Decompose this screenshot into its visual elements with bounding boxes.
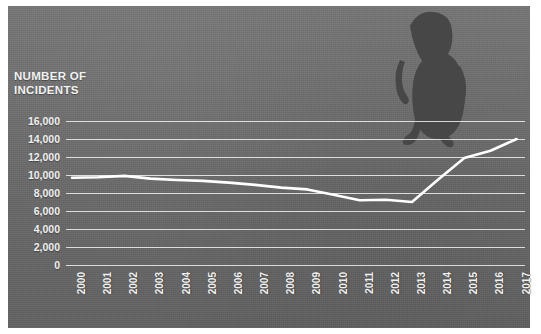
y-axis-title: NUMBER OF INCIDENTS [14,69,86,97]
gridline-0 [66,265,525,266]
x-tick-label-2010: 2010 [338,272,349,294]
y-tick-label-6000: 6,000 [34,205,60,217]
gridline-14000 [66,139,525,140]
x-tick-label-2003: 2003 [154,272,165,294]
x-tick-label-2006: 2006 [233,272,244,294]
x-tick-label-2004: 2004 [181,272,192,294]
y-axis-tick-labels: 16,00014,00012,00010,0008,0006,0004,0002… [0,121,60,265]
y-tick-label-4000: 4,000 [34,223,60,235]
x-tick-label-2015: 2015 [468,272,479,294]
y-tick-label-16000: 16,000 [28,115,60,127]
x-tick-label-2000: 2000 [76,272,87,294]
gridline-2000 [66,247,525,248]
y-tick-label-2000: 2,000 [34,241,60,253]
y-tick-label-0: 0 [54,259,60,271]
x-tick-label-2001: 2001 [102,272,113,294]
x-axis-tick-labels: 2000200120022003200420052006200720082009… [66,270,525,330]
x-tick-label-2013: 2013 [416,272,427,294]
x-tick-label-2005: 2005 [207,272,218,294]
gridline-10000 [66,175,525,176]
y-tick-label-14000: 14,000 [28,133,60,145]
x-tick-label-2007: 2007 [259,272,270,294]
gridline-6000 [66,211,525,212]
x-tick-label-2014: 2014 [442,272,453,294]
x-tick-label-2017: 2017 [521,272,532,294]
y-tick-label-8000: 8,000 [34,187,60,199]
x-tick-label-2016: 2016 [494,272,505,294]
plot-area [66,121,525,265]
x-tick-label-2011: 2011 [364,272,375,294]
gridline-12000 [66,157,525,158]
y-axis-title-line1: NUMBER OF [14,69,86,83]
y-axis-title-line2: INCIDENTS [14,83,86,97]
y-tick-label-12000: 12,000 [28,151,60,163]
x-tick-label-2008: 2008 [285,272,296,294]
gridline-8000 [66,193,525,194]
gridline-16000 [66,121,525,122]
y-tick-label-10000: 10,000 [28,169,60,181]
x-tick-label-2012: 2012 [390,272,401,294]
gridline-4000 [66,229,525,230]
chart-screenshot: NUMBER OF INCIDENTS 16,00014,00012,00010… [0,0,541,334]
x-tick-label-2002: 2002 [128,272,139,294]
x-tick-label-2009: 2009 [311,272,322,294]
